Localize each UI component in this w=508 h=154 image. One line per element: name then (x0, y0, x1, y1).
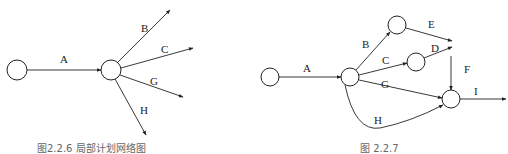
edge-arrow-g (359, 80, 442, 98)
caption-right: 图 2.2.7 (360, 143, 399, 154)
edge-label-b: B (362, 38, 369, 50)
edge-label-h: H (140, 104, 148, 116)
figure-left-network: ABCGH (7, 10, 193, 135)
edge-arrow-c (121, 48, 193, 68)
event-node-circle (261, 68, 279, 86)
event-node-circle (442, 90, 460, 108)
event-node-circle (341, 68, 359, 86)
event-node-circle (7, 60, 27, 80)
edge-label-d: D (431, 42, 439, 54)
caption-left: 图2.2.6 局部计划网络图 (37, 142, 146, 154)
event-node-circle (407, 53, 425, 71)
edge-label-h: H (374, 114, 382, 126)
network-diagrams: ABCGH ABCDEFGIH 图2.2.6 局部计划网络图 图 2.2.7 (0, 0, 508, 154)
edge-label-i: I (474, 85, 478, 97)
event-node-circle (101, 60, 121, 80)
edge-label-c: C (161, 43, 168, 55)
edge-label-e: E (428, 18, 435, 30)
edge-label-a: A (303, 62, 311, 74)
figure-right-network: ABCDEFGIH (261, 16, 506, 128)
edge-label-f: F (464, 63, 470, 75)
edge-label-c: C (382, 54, 389, 66)
edge-label-g: G (381, 78, 389, 90)
edge-label-g: G (150, 75, 158, 87)
edge-arrow-h (345, 85, 443, 128)
edge-label-b: B (141, 22, 148, 34)
edge-label-a: A (60, 53, 68, 65)
event-node-circle (388, 16, 406, 34)
